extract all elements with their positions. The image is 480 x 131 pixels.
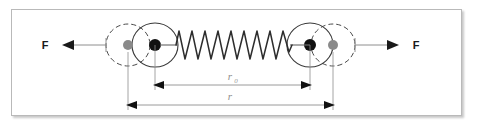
- dimension-r-total-label: r: [228, 90, 233, 102]
- left-force-label: F: [42, 39, 49, 51]
- dimension-r-zero-subscript: 0: [234, 77, 238, 85]
- left-atom-ghost-nucleus-dot-icon: [123, 40, 133, 50]
- right-force-group: F: [355, 38, 420, 52]
- figure-canvas: F F r 0 r: [0, 0, 480, 131]
- dimension-r-zero-label: r: [228, 70, 233, 82]
- left-force-group: F: [42, 38, 106, 52]
- dimension-r-total: r: [126, 90, 335, 109]
- figure-root: F F r 0 r: [0, 0, 480, 131]
- arrow-right-icon: [387, 40, 399, 50]
- right-force-label: F: [413, 39, 420, 51]
- spring-coil-icon: [176, 31, 292, 59]
- dimension-r-zero: r 0: [153, 70, 312, 89]
- right-atom-ghost-nucleus-dot-icon: [328, 40, 338, 50]
- arrow-left-icon: [62, 40, 74, 50]
